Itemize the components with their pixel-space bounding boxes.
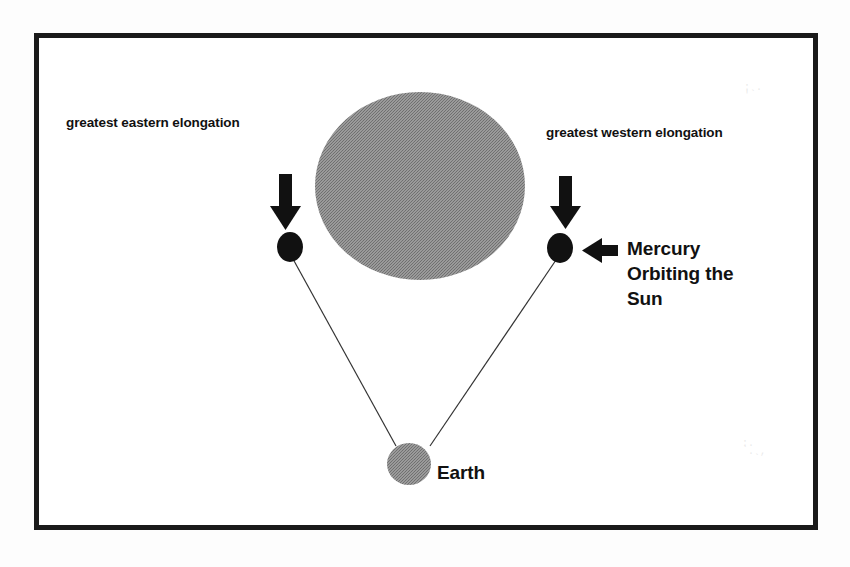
label-mercury-orbiting-the-sun: Mercury Orbiting the Sun bbox=[627, 236, 733, 311]
sight-line-western bbox=[430, 260, 556, 446]
earth-body bbox=[387, 443, 431, 485]
mercury-western-body bbox=[547, 233, 573, 263]
mercury-eastern-body bbox=[277, 232, 303, 262]
arrow-left-mercury-callout-icon bbox=[582, 238, 618, 263]
label-earth: Earth bbox=[437, 462, 485, 484]
label-greatest-western-elongation: greatest western elongation bbox=[546, 125, 723, 140]
sun-body bbox=[315, 92, 525, 280]
arrow-down-western-icon bbox=[550, 176, 581, 229]
scanned-diagram-page: greatest eastern elongation greatest wes… bbox=[0, 0, 850, 567]
arrow-down-eastern-icon bbox=[270, 174, 301, 230]
label-greatest-eastern-elongation: greatest eastern elongation bbox=[66, 115, 240, 130]
sight-line-eastern bbox=[293, 259, 396, 446]
